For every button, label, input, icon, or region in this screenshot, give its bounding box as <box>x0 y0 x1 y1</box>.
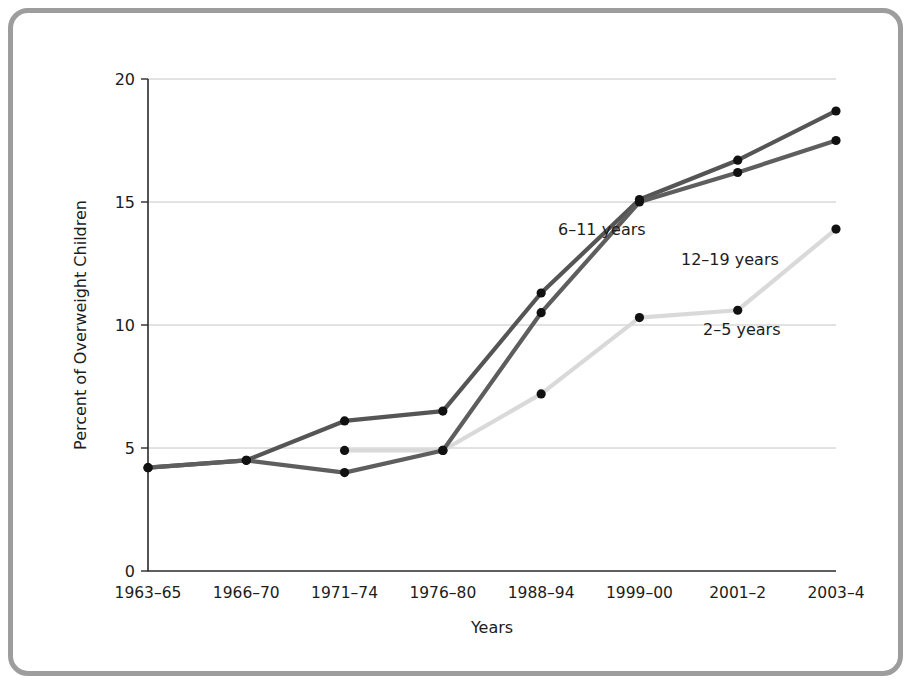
series-line-6-11-years <box>148 111 836 468</box>
series-label-12-19-years: 12–19 years <box>681 250 779 269</box>
data-point <box>340 468 349 477</box>
xtick-label-6: 2001–2 <box>709 584 766 602</box>
overweight-children-line-chart: 051015201963–651966–701971–741976–801988… <box>13 13 898 671</box>
data-point <box>635 197 644 206</box>
data-point <box>831 136 840 145</box>
data-point <box>635 313 644 322</box>
ytick-label-15: 15 <box>115 193 135 212</box>
xtick-label-7: 2003–4 <box>807 584 864 602</box>
figure-frame: 051015201963–651966–701971–741976–801988… <box>8 8 903 676</box>
data-point <box>537 389 546 398</box>
data-point <box>340 446 349 455</box>
xtick-label-1: 1966–70 <box>213 584 280 602</box>
data-point <box>143 463 152 472</box>
ytick-label-10: 10 <box>115 316 135 335</box>
ytick-label-0: 0 <box>125 562 135 581</box>
data-point <box>242 456 251 465</box>
series-label-6-11-years: 6–11 years <box>558 220 646 239</box>
data-point <box>537 308 546 317</box>
xtick-label-2: 1971–74 <box>311 584 378 602</box>
data-point <box>340 416 349 425</box>
data-point <box>831 106 840 115</box>
y-axis-title: Percent of Overweight Children <box>71 200 90 450</box>
xtick-label-4: 1988–94 <box>508 584 575 602</box>
series-label-2-5-years: 2–5 years <box>703 320 780 339</box>
xtick-label-0: 1963–65 <box>115 584 182 602</box>
data-point <box>537 288 546 297</box>
data-point <box>831 224 840 233</box>
ytick-label-20: 20 <box>115 70 135 89</box>
chart-figure: 051015201963–651966–701971–741976–801988… <box>13 13 898 671</box>
data-point <box>733 168 742 177</box>
x-axis-title: Years <box>470 618 513 637</box>
data-point <box>438 446 447 455</box>
data-point <box>438 407 447 416</box>
ytick-label-5: 5 <box>125 439 135 458</box>
xtick-label-5: 1999–00 <box>606 584 673 602</box>
data-point <box>733 306 742 315</box>
data-point <box>733 156 742 165</box>
xtick-label-3: 1976–80 <box>409 584 476 602</box>
